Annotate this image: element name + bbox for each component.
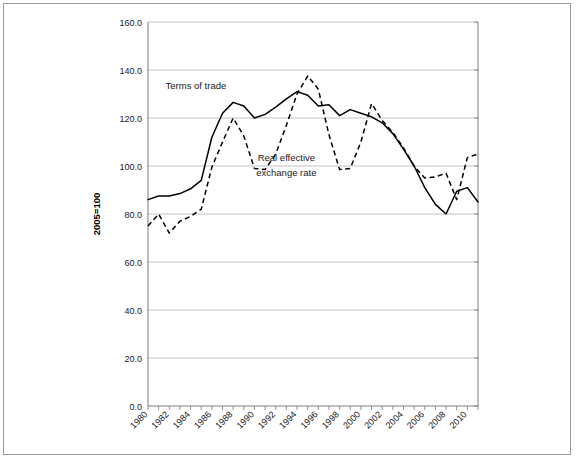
y-axis-tick-label: 140.0	[119, 66, 142, 76]
x-axis-tick-label: 1988	[213, 409, 234, 430]
y-axis-tick-label: 100.0	[119, 162, 142, 172]
x-axis-tick-label: 2008	[426, 409, 447, 430]
gridlines-group	[148, 22, 478, 358]
line-chart: 0.020.040.060.080.0100.0120.0140.0160.0 …	[0, 0, 577, 461]
x-axis-tick-label: 1994	[277, 409, 298, 430]
x-axis-tick-label: 1990	[235, 409, 256, 430]
y-axis-tick-label: 0.0	[129, 402, 142, 412]
y-axis-tick-label: 80.0	[124, 210, 142, 220]
series-annotation-label: exchange rate	[256, 167, 316, 178]
y-axis-tick-label: 60.0	[124, 258, 142, 268]
x-axis-tick-label: 1998	[320, 409, 341, 430]
x-axis-tick-label: 1984	[171, 409, 192, 430]
x-axis-tick-label: 2000	[341, 409, 362, 430]
y-axis-tick-label: 20.0	[124, 354, 142, 364]
right-axis-ticks	[474, 22, 478, 406]
x-axis-ticks	[148, 406, 478, 410]
x-axis-tick-label: 1986	[192, 409, 213, 430]
x-axis-tick-label: 1980	[128, 409, 149, 430]
y-axis-tick-label: 120.0	[119, 114, 142, 124]
series-annotation-label: Terms of trade	[166, 80, 227, 91]
x-axis-tick-label: 2002	[362, 409, 383, 430]
y-axis-tick-label: 40.0	[124, 306, 142, 316]
x-axis-tick-labels: 1980198219841986198819901992199419961998…	[128, 409, 469, 430]
series-annotations: Terms of tradeReal effectiveexchange rat…	[166, 80, 317, 177]
x-axis-tick-label: 1992	[256, 409, 277, 430]
chart-plot-container: 0.020.040.060.080.0100.0120.0140.0160.0 …	[0, 0, 577, 461]
y-axis-title: 2005=100	[91, 193, 102, 236]
x-axis-tick-label: 2006	[405, 409, 426, 430]
x-axis-tick-label: 2004	[384, 409, 405, 430]
x-axis-tick-label: 1982	[149, 409, 170, 430]
x-axis-tick-label: 1996	[299, 409, 320, 430]
x-axis-tick-label: 2010	[448, 409, 469, 430]
series-annotation-label: Real effective	[258, 152, 315, 163]
chart-figure: 0.020.040.060.080.0100.0120.0140.0160.0 …	[0, 0, 577, 461]
y-axis-tick-labels: 0.020.040.060.080.0100.0120.0140.0160.0	[119, 18, 142, 412]
y-axis-tick-label: 160.0	[119, 18, 142, 28]
